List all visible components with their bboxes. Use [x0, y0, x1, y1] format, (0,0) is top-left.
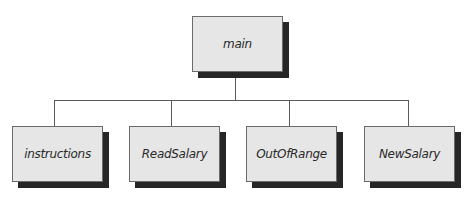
child-connector-2: [171, 100, 172, 126]
node-label: OutOfRange: [256, 147, 327, 161]
node-main: main: [192, 16, 283, 72]
node-label: main: [223, 37, 252, 51]
root-connector: [235, 71, 236, 100]
child-connector-3: [289, 100, 290, 126]
child-connector-4: [408, 100, 409, 126]
node-instructions: instructions: [12, 126, 103, 182]
node-outofrange: OutOfRange: [246, 126, 337, 182]
node-label: instructions: [24, 147, 91, 161]
node-label: ReadSalary: [142, 147, 207, 161]
horizontal-bus: [54, 100, 409, 101]
node-label: NewSalary: [379, 147, 440, 161]
node-readsalary: ReadSalary: [129, 126, 220, 182]
child-connector-1: [54, 100, 55, 126]
node-newsalary: NewSalary: [364, 126, 455, 182]
